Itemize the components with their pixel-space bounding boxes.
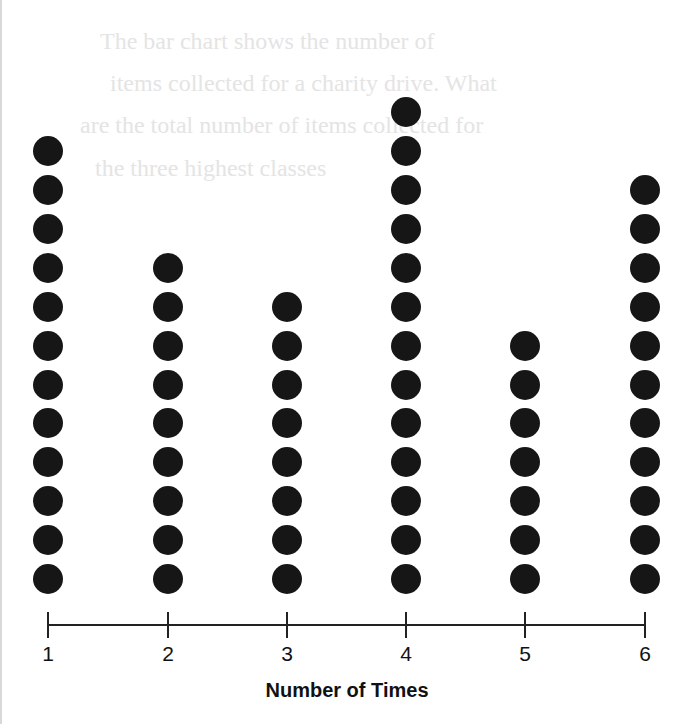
- data-dot: [630, 408, 660, 438]
- page-edge: [0, 0, 2, 724]
- data-dot: [391, 97, 421, 127]
- data-dot: [33, 486, 63, 516]
- data-dot: [272, 408, 302, 438]
- x-axis-line: [48, 624, 645, 626]
- x-axis-tick-label: 5: [510, 642, 540, 666]
- x-axis-tick-label: 6: [630, 642, 660, 666]
- data-dot: [153, 486, 183, 516]
- data-dot: [153, 331, 183, 361]
- data-dot: [33, 292, 63, 322]
- data-dot: [630, 447, 660, 477]
- data-dot: [391, 331, 421, 361]
- data-dot: [510, 486, 540, 516]
- data-dot: [33, 214, 63, 244]
- ghost-line: items collected for a charity drive. Wha…: [110, 70, 497, 97]
- x-axis-tick-label: 2: [153, 642, 183, 666]
- data-dot: [391, 447, 421, 477]
- x-axis-tick-label: 1: [33, 642, 63, 666]
- data-dot: [153, 525, 183, 555]
- data-dot: [391, 564, 421, 594]
- data-dot: [510, 370, 540, 400]
- data-dot: [391, 370, 421, 400]
- data-dot: [272, 292, 302, 322]
- data-dot: [153, 408, 183, 438]
- data-dot: [630, 331, 660, 361]
- data-dot: [391, 486, 421, 516]
- data-dot: [630, 214, 660, 244]
- data-dot: [33, 408, 63, 438]
- data-dot: [272, 331, 302, 361]
- data-dot: [391, 408, 421, 438]
- x-axis-tick: [405, 612, 407, 638]
- data-dot: [153, 447, 183, 477]
- data-dot: [33, 564, 63, 594]
- data-dot: [272, 486, 302, 516]
- data-dot: [391, 175, 421, 205]
- x-axis-tick: [167, 612, 169, 638]
- ghost-line: The bar chart shows the number of: [100, 28, 435, 55]
- x-axis-tick-label: 3: [272, 642, 302, 666]
- data-dot: [272, 447, 302, 477]
- data-dot: [33, 525, 63, 555]
- data-dot: [33, 370, 63, 400]
- data-dot: [391, 136, 421, 166]
- data-dot: [630, 564, 660, 594]
- data-dot: [510, 447, 540, 477]
- data-dot: [33, 253, 63, 283]
- x-axis-tick: [286, 612, 288, 638]
- x-axis-tick-label: 4: [391, 642, 421, 666]
- data-dot: [630, 370, 660, 400]
- data-dot: [33, 175, 63, 205]
- x-axis-tick: [524, 612, 526, 638]
- data-dot: [272, 370, 302, 400]
- data-dot: [510, 408, 540, 438]
- data-dot: [272, 525, 302, 555]
- data-dot: [630, 253, 660, 283]
- x-axis-title: Number of Times: [0, 679, 680, 702]
- x-axis-tick: [644, 612, 646, 638]
- data-dot: [630, 175, 660, 205]
- data-dot: [391, 525, 421, 555]
- data-dot: [630, 525, 660, 555]
- data-dot: [510, 331, 540, 361]
- data-dot: [391, 253, 421, 283]
- data-dot: [33, 136, 63, 166]
- data-dot: [272, 564, 302, 594]
- data-dot: [153, 253, 183, 283]
- x-axis-tick: [47, 612, 49, 638]
- data-dot: [33, 331, 63, 361]
- ghost-line: the three highest classes: [95, 155, 326, 182]
- data-dot: [33, 447, 63, 477]
- ghost-line: are the total number of items collected …: [80, 112, 483, 139]
- data-dot: [153, 292, 183, 322]
- data-dot: [153, 370, 183, 400]
- data-dot: [630, 486, 660, 516]
- data-dot: [153, 564, 183, 594]
- data-dot: [630, 292, 660, 322]
- data-dot: [391, 214, 421, 244]
- data-dot: [510, 525, 540, 555]
- data-dot: [391, 292, 421, 322]
- data-dot: [510, 564, 540, 594]
